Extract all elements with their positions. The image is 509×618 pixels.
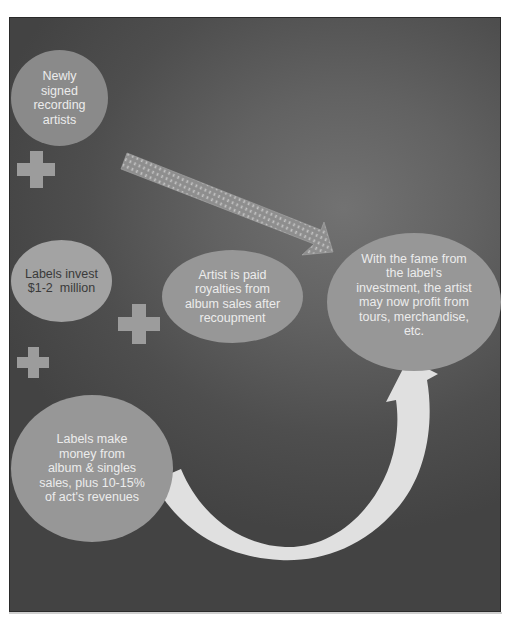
plus-icon bbox=[17, 347, 49, 378]
plus-signs bbox=[0, 0, 509, 618]
plus-icon bbox=[118, 304, 160, 344]
plus-icon bbox=[17, 151, 55, 188]
